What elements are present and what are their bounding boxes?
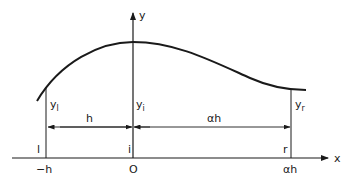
x-axis-label: x xyxy=(334,152,341,165)
diagram-canvas: y x yl yi yr h αh l i r −h O αh xyxy=(0,0,346,178)
function-curve xyxy=(37,42,306,101)
ordinate-label-right: yr xyxy=(295,98,306,113)
ordinate-label-left: yl xyxy=(50,98,59,113)
spacing-label-alpha-h: αh xyxy=(207,112,221,125)
tick-label-origin: O xyxy=(129,163,138,176)
point-label-r: r xyxy=(283,143,288,156)
point-label-l: l xyxy=(37,143,40,156)
spacing-label-h: h xyxy=(86,112,93,125)
tick-label-minus-h: −h xyxy=(36,163,52,176)
diagram-svg: y x yl yi yr h αh l i r −h O αh xyxy=(0,0,346,178)
tick-label-alpha-h: αh xyxy=(283,163,297,176)
point-label-i: i xyxy=(128,143,131,156)
ordinate-label-middle: yi xyxy=(136,98,145,113)
y-axis-label: y xyxy=(139,9,146,22)
